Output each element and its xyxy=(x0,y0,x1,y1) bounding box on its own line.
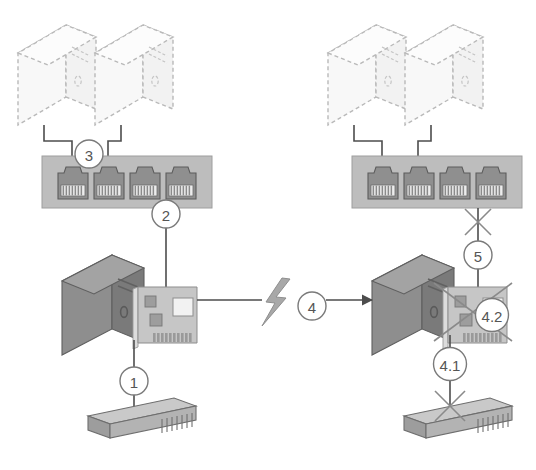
patch-panel-left[interactable] xyxy=(42,156,212,208)
callout-5[interactable]: 5 xyxy=(464,241,492,269)
ghost-pc-top-left-1 xyxy=(18,25,96,125)
callout-5-label: 5 xyxy=(474,248,482,265)
callout-3[interactable]: 3 xyxy=(75,140,103,168)
nic-left[interactable] xyxy=(133,287,197,349)
network-diagram-canvas: 1 2 3 4 5 4.1 xyxy=(0,0,536,470)
ghost-pc-top-right-1 xyxy=(328,25,406,125)
callout-2[interactable]: 2 xyxy=(152,200,180,228)
callout-2-label: 2 xyxy=(162,207,170,224)
server-right[interactable] xyxy=(372,255,454,355)
callout-4-1-label: 4.1 xyxy=(440,357,461,374)
callout-4-2[interactable]: 4.2 xyxy=(476,299,509,332)
wall-outlet-right[interactable] xyxy=(404,398,512,438)
network-diagram-svg: 1 2 3 4 5 4.1 xyxy=(0,0,536,470)
callout-4-label: 4 xyxy=(308,299,316,316)
fault-bolt-icon xyxy=(262,278,290,326)
callout-1[interactable]: 1 xyxy=(120,367,148,395)
callout-3-label: 3 xyxy=(85,147,93,164)
callout-4[interactable]: 4 xyxy=(298,292,326,320)
wall-outlet-left[interactable] xyxy=(88,398,196,438)
ghost-workstation-group xyxy=(18,25,483,125)
ghost-pc-top-left-2 xyxy=(95,25,173,125)
ghost-pc-top-right-2 xyxy=(405,25,483,125)
server-left[interactable] xyxy=(62,255,144,355)
callout-1-label: 1 xyxy=(130,374,138,391)
patch-panel-right[interactable] xyxy=(352,156,522,208)
callout-4-1[interactable]: 4.1 xyxy=(434,348,467,381)
callout-4-2-label: 4.2 xyxy=(482,308,503,325)
